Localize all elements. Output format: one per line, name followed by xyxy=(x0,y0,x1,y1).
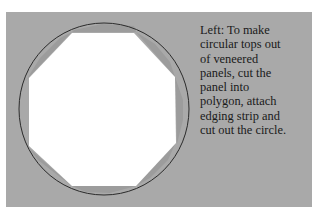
caption-line: polygon, attach xyxy=(200,94,312,108)
octagon-panel xyxy=(29,33,176,186)
caption-line: Left: To make xyxy=(200,23,312,37)
caption-line: panels, cut the xyxy=(200,66,312,80)
caption-line: edging strip and xyxy=(200,109,312,123)
caption-line: panel into xyxy=(200,80,312,94)
caption-line: circular tops out xyxy=(200,37,312,51)
caption-line: cut out the circle. xyxy=(200,123,312,137)
caption-text: Left: To make circular tops out of venee… xyxy=(200,23,312,137)
caption-line: of veneered xyxy=(200,52,312,66)
